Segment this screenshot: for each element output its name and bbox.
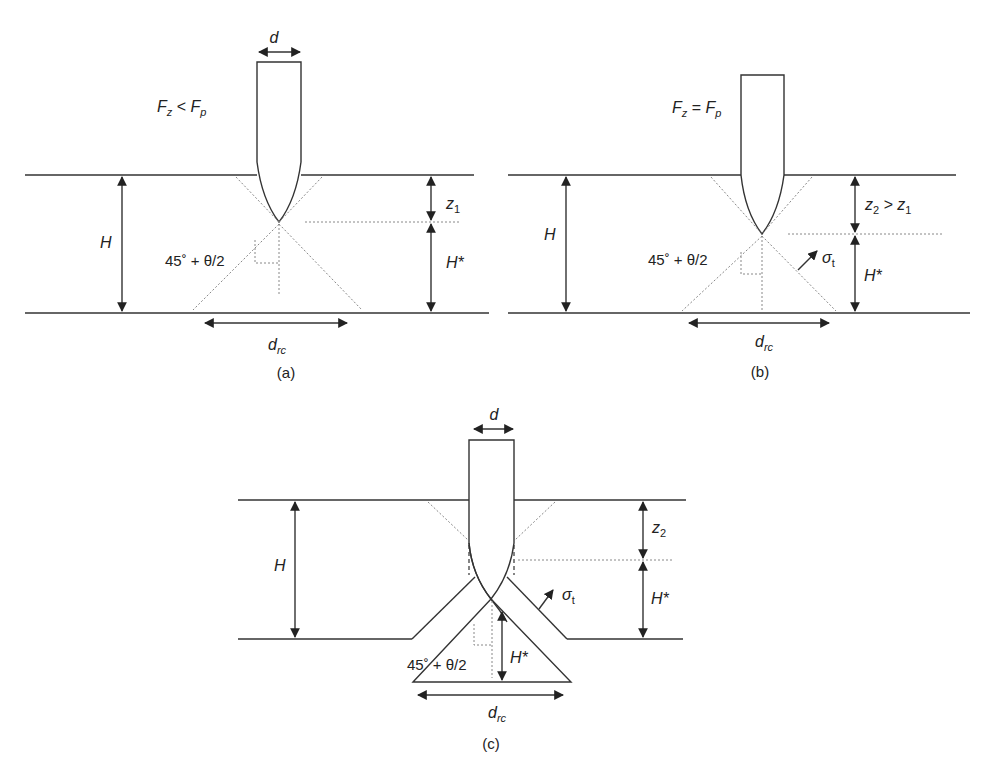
panel-a: d Fz < Fp H z1 H* 45˚ + θ/2 drc (a) [25, 29, 489, 381]
plug-wall-left-c [412, 577, 475, 639]
base-diameter-label-b: drc [755, 333, 774, 353]
penetration-diagram: d Fz < Fp H z1 H* 45˚ + θ/2 drc (a) Fz =… [0, 0, 992, 780]
cone-guide-c [428, 502, 468, 540]
plug-wall-right-c [507, 577, 567, 639]
projectile-c [469, 440, 514, 599]
caption-b: (b) [751, 363, 769, 380]
caption-a: (a) [277, 364, 295, 381]
angle-label-b: 45˚ + θ/2 [648, 251, 708, 268]
tensile-stress-label-b: σt [822, 249, 835, 269]
thickness-label-a: H [100, 234, 112, 251]
angle-marker-c [474, 624, 491, 645]
plug-height-label-c: H* [510, 649, 529, 666]
angle-marker-b [741, 252, 761, 274]
force-condition-a: Fz < Fp [157, 98, 206, 118]
penetration-label-c: z2 [651, 519, 666, 539]
probe-width-label-a: d [270, 29, 280, 46]
caption-c: (c) [482, 735, 500, 752]
remaining-thickness-label-c: H* [651, 590, 670, 607]
base-diameter-label-a: drc [268, 336, 287, 356]
projectile-a [257, 62, 301, 222]
penetration-label-a: z1 [445, 195, 460, 215]
shear-plane-right-b [762, 236, 836, 311]
thickness-label-b: H [544, 226, 556, 243]
tensile-stress-arrow-c [539, 590, 553, 609]
remaining-thickness-label-b: H* [864, 267, 883, 284]
panel-c: d H z2 H* H* 45˚ + θ/2 σt drc (c) [238, 406, 686, 752]
base-diameter-label-c: drc [488, 704, 507, 724]
tensile-stress-label-c: σt [562, 586, 575, 606]
probe-width-label-c: d [490, 406, 500, 423]
shear-plane-left-b [682, 236, 762, 311]
thickness-label-c: H [274, 557, 286, 574]
angle-label-c: 45˚ + θ/2 [407, 656, 467, 673]
shear-plane-right-a [279, 224, 362, 310]
remaining-thickness-label-a: H* [446, 254, 465, 271]
angle-label-a: 45˚ + θ/2 [165, 252, 225, 269]
projectile-b [741, 75, 784, 234]
panel-b: Fz = Fp H z2 > z1 H* 45˚ + θ/2 σt drc (b… [508, 75, 970, 380]
tensile-stress-arrow-b [798, 251, 817, 270]
angle-marker-a [255, 240, 278, 263]
force-condition-b: Fz = Fp [672, 99, 721, 119]
penetration-label-b: z2 > z1 [864, 196, 911, 216]
cone-guide-c [515, 502, 555, 540]
